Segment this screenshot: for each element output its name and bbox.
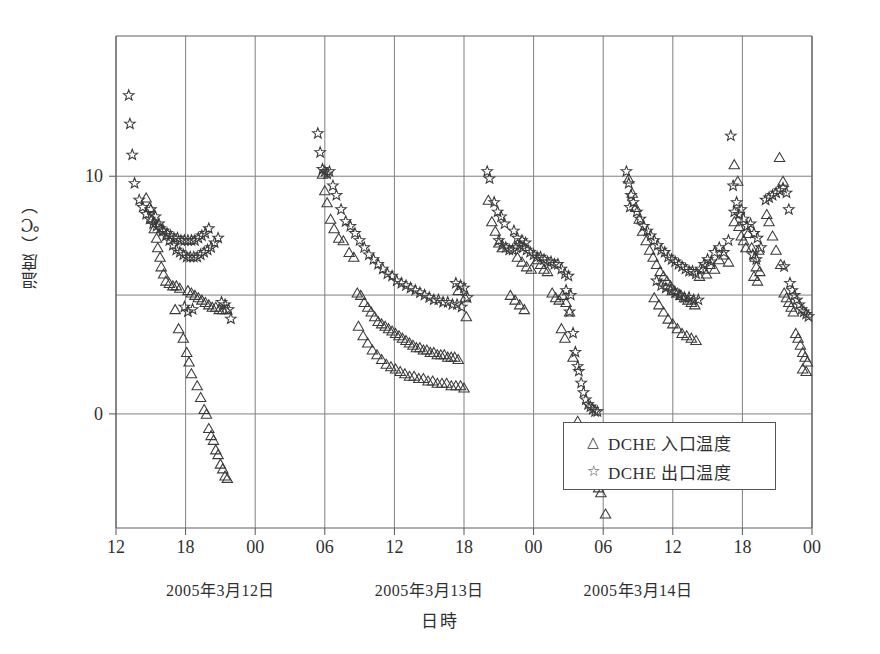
- y-tick-label: 10: [85, 166, 103, 187]
- x-tick-label: 18: [733, 537, 751, 558]
- x-tick-label: 12: [664, 537, 682, 558]
- y-tick-label: 0: [94, 403, 103, 424]
- x-tick-label: 18: [177, 537, 195, 558]
- legend-label-inlet: DCHE 入口温度: [608, 430, 731, 455]
- x-axis-label: 日時: [0, 607, 880, 632]
- date-label: 2005年3月12日: [166, 577, 275, 601]
- series-markers-outlet: [123, 90, 813, 416]
- legend-label-outlet: DCHE 出口温度: [608, 459, 731, 484]
- y-axis-label: 温度（℃）: [18, 196, 48, 289]
- date-label: 2005年3月14日: [584, 577, 693, 601]
- triangle-marker-icon: △: [578, 435, 608, 450]
- star-marker-icon: ☆: [578, 464, 608, 479]
- x-tick-label: 00: [525, 537, 543, 558]
- x-tick-label: 12: [107, 537, 125, 558]
- chart-legend: △ DCHE 入口温度 ☆ DCHE 出口温度: [563, 422, 776, 490]
- x-tick-label: 18: [455, 537, 473, 558]
- date-label: 2005年3月13日: [375, 577, 484, 601]
- legend-item-outlet: ☆ DCHE 出口温度: [578, 457, 775, 486]
- legend-item-inlet: △ DCHE 入口温度: [578, 428, 775, 457]
- chart-figure: 温度（℃） 日時 010 1218000612180006121800 2005…: [0, 0, 880, 654]
- x-tick-label: 00: [803, 537, 821, 558]
- x-tick-label: 12: [385, 537, 403, 558]
- x-tick-label: 00: [246, 537, 264, 558]
- x-tick-label: 06: [316, 537, 334, 558]
- x-tick-label: 06: [594, 537, 612, 558]
